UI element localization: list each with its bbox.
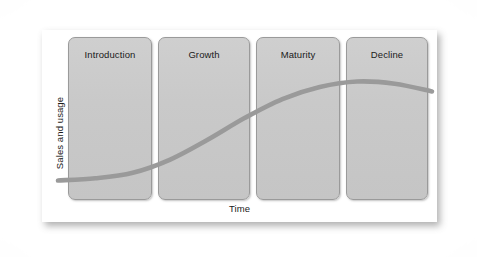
stage-box-maturity[interactable]: Maturity: [256, 37, 340, 200]
y-axis-label: Sales and usage: [52, 78, 66, 188]
stage-label-growth: Growth: [159, 49, 249, 60]
stage-box-introduction[interactable]: Introduction: [68, 37, 152, 200]
stage-box-growth[interactable]: Growth: [158, 37, 250, 200]
stage-box-decline[interactable]: Decline: [346, 37, 428, 200]
diagram-canvas: Sales and usage Introduction Growth Matu…: [0, 0, 477, 257]
stage-label-introduction: Introduction: [69, 49, 151, 60]
stage-label-maturity: Maturity: [257, 49, 339, 60]
x-axis-label: Time: [42, 203, 437, 214]
stage-label-decline: Decline: [347, 49, 427, 60]
y-axis-label-text: Sales and usage: [54, 97, 65, 169]
